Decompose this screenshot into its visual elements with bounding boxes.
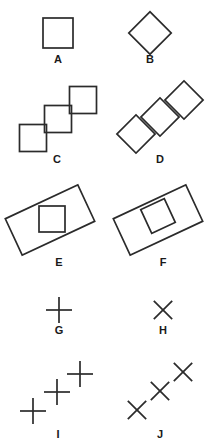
panel-j [119,354,202,429]
square-shape [20,125,47,152]
plus-shape [20,398,46,424]
rectangle-shape [113,185,202,255]
panel-label-e: E [55,256,62,268]
panel-d [117,81,203,153]
x-cross-shape [165,354,202,391]
plus-shape [46,297,72,323]
x-cross-shape [142,373,179,410]
panel-f [113,185,202,255]
panel-e [5,185,94,255]
panel-label-g: G [55,324,64,336]
figure-container: ABCDEFGHIJ [0,0,217,445]
diamond-shape [117,115,155,153]
square-shape [39,206,65,232]
panel-label-h: H [159,324,167,336]
panel-b [129,12,171,54]
diamond-shape [165,81,203,119]
square-shape [70,87,97,114]
panel-a [43,18,73,48]
panel-h [145,292,182,329]
panels-layer [5,12,203,429]
panel-label-c: C [53,153,61,165]
panel-c [20,87,97,152]
x-cross-shape [119,392,156,429]
panel-label-d: D [156,153,164,165]
panel-label-j: J [157,428,163,440]
plus-shape [44,379,70,405]
diamond-shape [141,98,179,136]
square-shape [43,18,73,48]
plus-shape [67,361,93,387]
shape-stimuli-figure: ABCDEFGHIJ [0,0,217,445]
x-cross-shape [145,292,182,329]
rectangle-shape [5,185,94,255]
panel-label-f: F [160,256,167,268]
panel-label-b: B [146,53,154,65]
panel-label-a: A [54,53,62,65]
diamond-shape [129,12,171,54]
panel-g [46,297,72,323]
panel-i [20,361,93,424]
panel-label-i: I [56,428,59,440]
square-shape [45,106,72,133]
